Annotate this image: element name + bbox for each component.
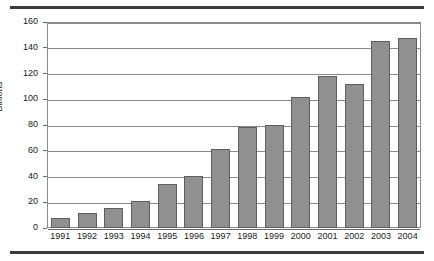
x-tick-label: 1991 <box>47 231 74 241</box>
x-tick-label: 1996 <box>181 231 208 241</box>
x-tick-label: 1992 <box>74 231 101 241</box>
y-tick-label: 160 <box>10 17 38 26</box>
y-tick-label: 60 <box>10 146 38 155</box>
bar <box>184 176 203 228</box>
bottom-divider-rule <box>10 251 424 254</box>
x-tick-label: 2004 <box>394 231 421 241</box>
x-tick-label: 2000 <box>287 231 314 241</box>
x-axis-ticks: 1991199219931994199519961997199819992000… <box>47 231 421 245</box>
bar <box>131 201 150 228</box>
bar <box>398 38 417 228</box>
y-tick-label: 120 <box>10 69 38 78</box>
bar <box>78 213 97 228</box>
bar <box>211 149 230 228</box>
top-divider-rule <box>10 6 424 9</box>
y-tick-label: 40 <box>10 172 38 181</box>
bar <box>51 218 70 228</box>
y-axis-title: Billions <box>0 81 4 111</box>
x-tick-label: 1997 <box>207 231 234 241</box>
bar <box>371 41 390 228</box>
x-tick-label: 2002 <box>341 231 368 241</box>
bar <box>291 97 310 228</box>
bar <box>158 184 177 228</box>
bar-series <box>47 22 421 228</box>
y-tick-label: 140 <box>10 43 38 52</box>
x-tick-label: 1998 <box>234 231 261 241</box>
x-tick-label: 1995 <box>154 231 181 241</box>
y-tick-label: 20 <box>10 197 38 206</box>
y-tick-label: 0 <box>10 223 38 232</box>
bar <box>104 208 123 228</box>
x-tick-label: 1993 <box>100 231 127 241</box>
bar-chart-figure: 020406080100120140160 Billions 199119921… <box>0 0 434 261</box>
bar <box>345 84 364 228</box>
x-tick-label: 2003 <box>368 231 395 241</box>
y-tick-label: 100 <box>10 94 38 103</box>
x-tick-label: 1999 <box>261 231 288 241</box>
gridline <box>48 229 420 230</box>
bar <box>265 125 284 228</box>
x-tick-label: 2001 <box>314 231 341 241</box>
bar <box>318 76 337 228</box>
bar <box>238 127 257 228</box>
y-tick-label: 80 <box>10 120 38 129</box>
x-tick-label: 1994 <box>127 231 154 241</box>
